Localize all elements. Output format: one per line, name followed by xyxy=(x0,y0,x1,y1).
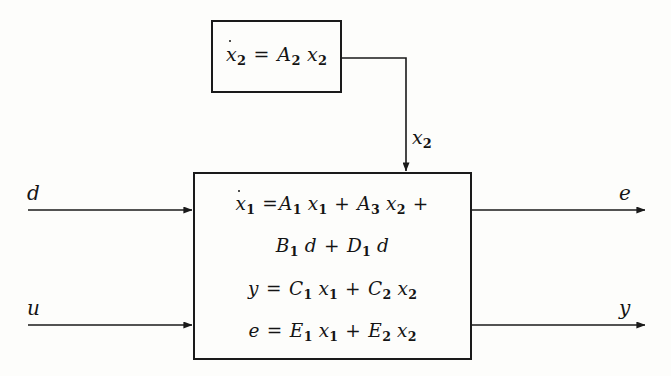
l3-lhs-var: y xyxy=(248,278,259,299)
l4-t2-coeff-sub: 2 xyxy=(382,328,391,343)
l4-t1-coeff: E xyxy=(290,320,304,341)
l2-t2-coeff-sub: 1 xyxy=(362,244,371,259)
l1-plus-1: + xyxy=(333,193,351,214)
l3-t2-coeff: C xyxy=(368,278,382,299)
l2-t1-coeff: B xyxy=(276,235,290,256)
l3-t1-var: x xyxy=(318,278,329,299)
l4-t1-coeff-sub: 1 xyxy=(304,328,313,343)
l1-t1-coeff: A xyxy=(279,193,293,214)
signal-label-x2-sub: 2 xyxy=(423,136,432,151)
signal-label-u: u xyxy=(27,296,40,320)
l4-t1-var-sub: 1 xyxy=(329,328,338,343)
l3-t2-var-sub: 2 xyxy=(408,286,417,301)
block-diagram-figure: x2 = A2 x2 x1 =A1 x1 + A3 x2 + B1 d + xyxy=(0,0,671,376)
l2-t2-var: d xyxy=(377,235,389,256)
l2-t1-coeff-sub: 1 xyxy=(290,244,299,259)
plant-equation-line-1: x1 =A1 x1 + A3 x2 + xyxy=(236,195,430,216)
l3-t2-coeff-sub: 2 xyxy=(383,286,392,301)
wire-x2 xyxy=(342,58,406,171)
l3-t1-coeff: C xyxy=(289,278,303,299)
l1-lhs-sub: 1 xyxy=(246,202,255,217)
signal-label-d: d xyxy=(27,181,40,205)
l1-t2-var-sub: 2 xyxy=(397,202,406,217)
exosystem-rhs-var: x xyxy=(307,43,318,65)
signal-label-e: e xyxy=(619,181,631,205)
l4-equals: = xyxy=(266,320,284,341)
l3-t2-var: x xyxy=(397,278,408,299)
l1-t1-var: x xyxy=(308,193,319,214)
exosystem-rhs-coeff-sub: 2 xyxy=(291,53,300,68)
l4-t1-var: x xyxy=(319,320,330,341)
l1-t2-coeff: A xyxy=(357,193,371,214)
exosystem-lhs-var: x xyxy=(226,45,237,64)
l1-equals: = xyxy=(261,193,279,214)
l1-t2-coeff-sub: 3 xyxy=(371,202,380,217)
exosystem-rhs-coeff: A xyxy=(277,43,291,65)
l4-t2-var-sub: 2 xyxy=(408,328,417,343)
l3-t1-coeff-sub: 1 xyxy=(303,286,312,301)
signal-label-x2: x2 xyxy=(412,126,432,151)
l3-equals: = xyxy=(265,278,283,299)
plant-equation-line-2: B1 d + D1 d xyxy=(276,237,389,258)
plant-equation-line-4: e = E1 x1 + E2 x2 xyxy=(248,322,416,343)
l3-plus: + xyxy=(344,278,362,299)
l1-plus-2: + xyxy=(412,193,430,214)
l4-t2-var: x xyxy=(397,320,408,341)
signal-label-y: y xyxy=(619,296,630,320)
exosystem-rhs-var-sub: 2 xyxy=(318,53,327,68)
plant-block: x1 =A1 x1 + A3 x2 + B1 d + D1 d y = C1 xyxy=(193,172,472,360)
plant-equation-line-3: y = C1 x1 + C2 x2 xyxy=(248,280,417,301)
l1-t2-var: x xyxy=(386,193,397,214)
l3-t1-var-sub: 1 xyxy=(329,286,338,301)
l2-t2-coeff: D xyxy=(347,235,362,256)
signal-label-x2-var: x xyxy=(412,126,423,148)
exosystem-equals: = xyxy=(253,43,271,65)
exosystem-equation: x2 = A2 x2 xyxy=(226,45,327,68)
l1-lhs-var: x xyxy=(236,195,247,214)
l2-plus: + xyxy=(323,235,341,256)
l4-lhs-var: e xyxy=(248,320,259,341)
exosystem-block: x2 = A2 x2 xyxy=(211,20,342,93)
l4-t2-coeff: E xyxy=(368,320,382,341)
l1-t1-var-sub: 1 xyxy=(318,202,327,217)
l1-t1-coeff-sub: 1 xyxy=(293,202,302,217)
l2-t1-var: d xyxy=(305,235,317,256)
exosystem-lhs-sub: 2 xyxy=(237,53,246,68)
plant-equation-list: x1 =A1 x1 + A3 x2 + B1 d + D1 d y = C1 xyxy=(236,189,430,348)
l4-plus: + xyxy=(344,320,362,341)
